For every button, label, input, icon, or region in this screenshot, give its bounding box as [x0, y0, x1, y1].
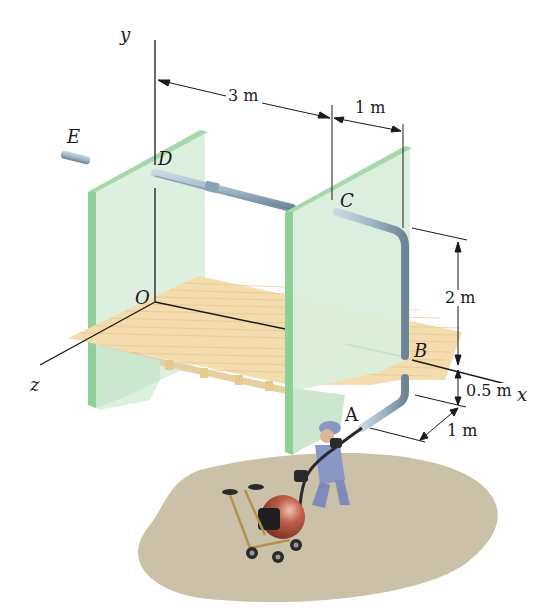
- point-E-label: E: [67, 128, 80, 146]
- z-axis-label: z: [30, 376, 39, 394]
- dimension-3m-label: 3 m: [226, 88, 260, 104]
- y-axis-label: y: [120, 26, 130, 44]
- origin-label: O: [135, 289, 150, 307]
- ground-patch: [138, 453, 498, 602]
- point-D-label: D: [158, 150, 172, 168]
- point-B-label: B: [414, 342, 427, 360]
- left-wall-edge: [88, 188, 96, 408]
- dimension-0.5m-label: 0.5 m: [464, 383, 514, 399]
- figure-drawing: [0, 0, 560, 616]
- right-wall-edge: [285, 208, 293, 455]
- right-wall: [290, 146, 410, 392]
- statics-figure: y x z O E D C B A 3 m 1 m 2 m 0.5 m 1 m: [0, 0, 560, 616]
- pipe-E: [60, 150, 91, 165]
- pipe-BA: [362, 378, 405, 428]
- dimension-1m-top-label: 1 m: [353, 100, 387, 116]
- point-A-label: A: [345, 406, 358, 424]
- dimension-1m-bottom-label: 1 m: [445, 423, 479, 439]
- pipe-coupling: [204, 180, 220, 193]
- dimension-1m-top: [334, 117, 401, 132]
- x-axis-label: x: [517, 386, 527, 404]
- point-C-label: C: [340, 192, 354, 210]
- dimension-2m-label: 2 m: [443, 290, 477, 306]
